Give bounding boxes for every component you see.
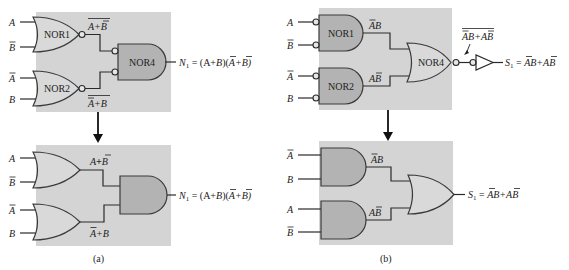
input-label-Bbar: B [9,42,16,53]
label-nor2-output: A+B [87,96,110,110]
nor4-input-bubble-1 [112,48,118,54]
svg-text:A+B: A+B [89,228,109,239]
input-label-Abar: A [8,205,16,216]
svg-text:AB: AB [370,154,383,165]
svg-text:AB: AB [368,207,381,218]
svg-text:S1 = AB+AB: S1 = AB+AB [505,57,555,70]
svg-text:N1 = (A+B)(A+B): N1 = (A+B)(A+B) [178,190,252,203]
input-label-B: B [287,174,293,185]
nor2-output-bubble [79,86,85,92]
gate-and [120,176,167,214]
gate-and-2 [321,201,366,239]
nor1-input-bubble-2 [313,42,319,48]
label-and2-output: AB [368,207,382,218]
caption-b: (b) [380,253,392,265]
svg-text:B: B [9,42,15,53]
svg-text:A+B: A+B [87,98,107,109]
gate-label-nor4: NOR4 [129,57,155,68]
label-nor2-output: AB [368,73,382,84]
inverter-triangle [476,55,493,70]
logic-diagram: A B A B NOR1 NOR2 NOR4 A+B [0,0,569,270]
nor2-input-bubble-1 [313,73,319,79]
input-label-B: B [9,228,15,239]
part-a-top: A B A B NOR1 NOR2 NOR4 A+B [8,12,252,112]
svg-text:B: B [287,40,293,51]
input-label-A: A [8,17,16,28]
svg-text:A: A [286,71,294,82]
svg-text:S1 = AB+AB: S1 = AB+AB [468,189,518,202]
svg-text:B: B [287,227,293,238]
expression-n1-top: N1 = (A+B)(A+B) [178,57,252,71]
svg-text:AB+AB: AB+AB [461,31,493,42]
part-b-bottom: A B A B AB AB S1 = AB+AB (b) [286,141,520,265]
gate-label-nor1: NOR1 [328,28,354,39]
expression-s1-bottom: S1 = AB+AB [468,189,520,203]
input-label-B: B [9,94,15,105]
expression-n1-bottom: N1 = (A+B)(A+B) [178,190,252,204]
svg-text:AB: AB [368,20,381,31]
nor4-output-bubble [453,60,459,66]
svg-text:AB: AB [368,73,381,84]
part-b-top: A B A B NOR1 NOR2 NOR4 AB [286,8,557,110]
label-and1-output: AB [370,154,383,165]
gate-label-nor1: NOR1 [44,29,70,40]
gate-label-nor2: NOR2 [328,81,354,92]
part-a-bottom: A B A B A+B A+B N1 = (A+B)(A+B) ( [8,145,252,265]
nor1-input-bubble-1 [313,19,319,25]
svg-text:A: A [8,205,16,216]
svg-text:A: A [286,150,294,161]
nor2-input-bubble-2 [313,95,319,101]
svg-text:A+B: A+B [87,21,107,32]
input-label-Bbar: B [9,177,16,188]
label-nor1-output: AB [368,20,381,31]
svg-text:N1 = (A+B)(A+B): N1 = (A+B)(A+B) [178,57,252,70]
label-nor4-output: AB+AB [461,29,494,43]
expression-s1-top: S1 = AB+AB [505,57,557,71]
input-label-Abar: A [286,71,294,82]
input-label-B: B [287,93,293,104]
nor1-output-bubble [79,32,85,38]
label-nor1-output: A+B [87,19,110,33]
input-label-Abar: A [8,73,16,84]
arrow-down-a [93,112,103,143]
label-or2-output: A+B [89,228,109,240]
input-label-A: A [8,153,16,164]
svg-text:B: B [9,177,15,188]
arrow-down-b [383,110,393,141]
input-label-Abar: A [286,150,294,161]
svg-text:A: A [8,73,16,84]
gate-label-nor2: NOR2 [44,83,70,94]
input-label-Bbar: B [287,227,294,238]
input-label-A: A [286,204,294,215]
gate-and-1 [321,148,366,186]
svg-text:A+B: A+B [89,156,108,167]
gate-label-nor4: NOR4 [418,57,444,68]
label-or1-output: A+B [89,155,111,167]
input-label-Bbar: B [287,40,294,51]
inverter-input-bubble [470,60,476,66]
input-label-A: A [286,17,294,28]
caption-a: (a) [93,253,104,265]
nor4-input-bubble-2 [112,69,118,75]
